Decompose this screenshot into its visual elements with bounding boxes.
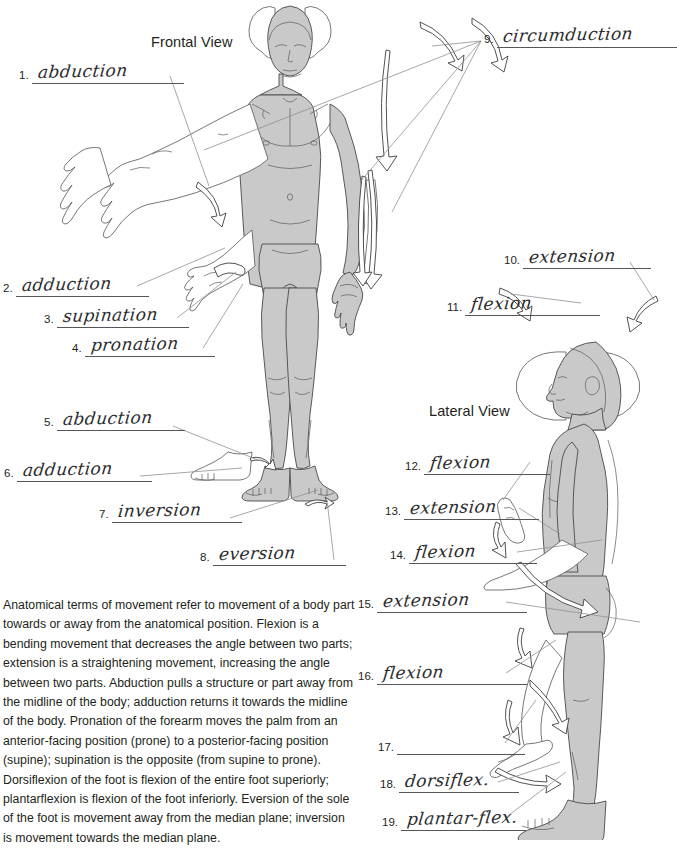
- answer-row-12[interactable]: 12. flexion: [405, 455, 550, 475]
- answer-number-5: 5.: [44, 417, 54, 431]
- answer-blank-16[interactable]: flexion: [377, 665, 527, 685]
- answer-blank-3[interactable]: supination: [57, 308, 189, 328]
- answer-text-4: pronation: [85, 335, 185, 356]
- answer-row-16[interactable]: 16. flexion: [358, 665, 527, 685]
- answer-row-13[interactable]: 13. extension: [385, 500, 539, 520]
- answer-text-17: [397, 749, 407, 750]
- answer-blank-10[interactable]: extension: [523, 249, 651, 269]
- frontal-view-title: Frontal View: [151, 34, 233, 50]
- answer-blank-7[interactable]: inversion: [112, 503, 242, 523]
- answer-row-19[interactable]: 19. plantar-flex.: [382, 811, 526, 831]
- answer-row-2[interactable]: 2. adduction: [3, 277, 149, 297]
- answer-number-11: 11.: [447, 302, 462, 316]
- answer-number-1: 1.: [19, 70, 29, 84]
- answer-row-1[interactable]: 1. abduction: [19, 64, 184, 84]
- answer-number-2: 2.: [3, 283, 13, 297]
- answer-number-4: 4.: [72, 343, 82, 357]
- answer-row-14[interactable]: 14. flexion: [390, 544, 537, 564]
- answer-number-14: 14.: [390, 550, 406, 564]
- answer-blank-11[interactable]: flexion: [465, 296, 600, 316]
- answer-number-6: 6.: [4, 468, 14, 482]
- answer-text-14: flexion: [409, 543, 482, 563]
- answer-text-16: flexion: [377, 664, 450, 684]
- answer-number-8: 8.: [200, 552, 210, 566]
- answer-text-6: adduction: [17, 460, 119, 481]
- answer-number-15: 15.: [358, 599, 374, 613]
- answer-number-13: 13.: [385, 506, 401, 520]
- answer-text-3: supination: [57, 306, 164, 327]
- answer-row-15[interactable]: 15. extension: [358, 593, 527, 613]
- answer-text-9: circumduction: [497, 25, 639, 47]
- answer-text-15: extension: [377, 591, 476, 612]
- answer-blank-8[interactable]: eversion: [213, 546, 346, 566]
- answer-number-19: 19.: [382, 817, 398, 831]
- answer-row-10[interactable]: 10. extension: [504, 249, 651, 269]
- answer-row-9[interactable]: 9. circumduction: [484, 28, 677, 48]
- answer-blank-18[interactable]: dorsiflex.: [399, 773, 519, 793]
- answer-number-7: 7.: [99, 509, 109, 523]
- description-paragraph: Anatomical terms of movement refer to mo…: [3, 596, 356, 848]
- answer-text-13: extension: [404, 498, 503, 519]
- answer-blank-6[interactable]: adduction: [17, 462, 152, 482]
- answer-text-1: abduction: [32, 62, 134, 83]
- lateral-view-title: Lateral View: [429, 403, 510, 419]
- answer-row-3[interactable]: 3. supination: [44, 308, 189, 328]
- answer-blank-15[interactable]: extension: [377, 593, 527, 613]
- answer-text-7: inversion: [112, 501, 207, 522]
- answer-row-5[interactable]: 5. abduction: [44, 411, 185, 431]
- answer-row-4[interactable]: 4. pronation: [72, 337, 215, 357]
- answer-row-17[interactable]: 17.: [378, 736, 525, 755]
- answer-blank-1[interactable]: abduction: [32, 64, 184, 84]
- answer-row-11[interactable]: 11. flexion: [447, 296, 600, 316]
- answer-number-17: 17.: [378, 742, 394, 756]
- answer-blank-4[interactable]: pronation: [85, 337, 215, 357]
- answer-text-10: extension: [523, 247, 622, 268]
- answer-text-11: flexion: [465, 295, 538, 315]
- answer-text-18: dorsiflex.: [399, 771, 495, 792]
- answer-number-18: 18.: [380, 779, 396, 793]
- answer-number-12: 12.: [405, 461, 421, 475]
- answer-text-19: plantar-flex.: [401, 808, 523, 829]
- answer-number-9: 9.: [484, 34, 494, 48]
- answer-row-6[interactable]: 6. adduction: [4, 462, 152, 482]
- answer-blank-9[interactable]: circumduction: [497, 28, 677, 48]
- answer-blank-17[interactable]: [397, 736, 525, 755]
- answer-blank-19[interactable]: plantar-flex.: [401, 811, 526, 831]
- answer-number-10: 10.: [504, 255, 520, 269]
- answer-row-18[interactable]: 18. dorsiflex.: [380, 773, 519, 793]
- answer-blank-12[interactable]: flexion: [424, 455, 550, 475]
- answer-text-8: eversion: [213, 544, 302, 565]
- answer-blank-5[interactable]: abduction: [57, 411, 185, 431]
- answer-number-16: 16.: [358, 671, 374, 685]
- answer-blank-13[interactable]: extension: [404, 500, 539, 520]
- answer-row-7[interactable]: 7. inversion: [99, 503, 242, 523]
- answer-blank-2[interactable]: adduction: [16, 277, 149, 297]
- answer-text-12: flexion: [424, 454, 497, 474]
- answer-blank-14[interactable]: flexion: [409, 544, 537, 564]
- answer-number-3: 3.: [44, 314, 54, 328]
- answer-text-5: abduction: [57, 409, 159, 430]
- answer-row-8[interactable]: 8. eversion: [200, 546, 346, 566]
- answer-text-2: adduction: [16, 275, 118, 296]
